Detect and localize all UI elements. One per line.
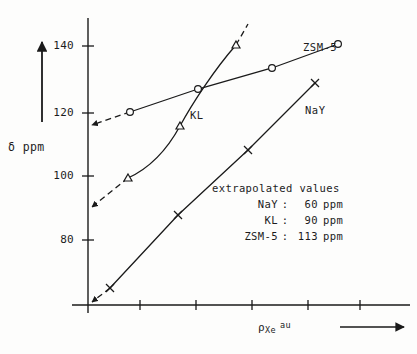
series-label-zsm5: ZSM-5 — [303, 41, 337, 53]
x-axis-superscript: au — [276, 320, 291, 330]
extrapolated-row-sep: : — [278, 196, 292, 212]
extrapolated-values-title: extrapolated values — [212, 180, 392, 196]
extrapolated-row-value: 90 — [292, 212, 318, 228]
y-tick-label-100: 100 — [44, 169, 74, 182]
x-axis-title: ρXeau — [258, 320, 291, 335]
extrapolated-values-box: extrapolated values NaY:60ppm KL:90ppm Z… — [212, 180, 392, 244]
extrapolated-row-name: NaY — [226, 196, 278, 212]
series-kl-extrapolation — [92, 178, 128, 207]
y-tick-label-80: 80 — [44, 233, 74, 246]
y-axis-unit: ppm — [23, 140, 45, 154]
extrapolated-row-sep: : — [278, 212, 292, 228]
series-kl-point — [232, 41, 240, 48]
extrapolated-row-name: ZSM-5 — [226, 228, 278, 244]
extrapolated-row-name: KL — [226, 212, 278, 228]
extrapolated-row-unit: ppm — [318, 212, 343, 228]
series-label-nay: NaY — [305, 104, 325, 116]
series-kl-line — [128, 45, 236, 178]
extrapolated-row-sep: : — [278, 228, 292, 244]
series-kl-point — [124, 174, 132, 181]
y-tick-label-140: 140 — [44, 39, 74, 52]
y-tick-label-120: 120 — [44, 106, 74, 119]
series-nay-point — [311, 79, 319, 87]
series-zsm5-line — [130, 44, 338, 112]
series-zsm5-extrapolation — [92, 112, 130, 125]
series-zsm5-point — [127, 109, 134, 116]
extrapolated-value-row: ZSM-5:113ppm — [212, 228, 392, 244]
series-nay-point — [106, 284, 114, 292]
series-kl-line-dashed-top — [236, 24, 248, 45]
series-kl-point — [176, 122, 184, 129]
x-axis-subscript: Xe — [265, 325, 276, 335]
extrapolated-row-unit: ppm — [318, 228, 343, 244]
series-nay-point — [174, 211, 182, 219]
extrapolated-row-unit: ppm — [318, 196, 343, 212]
series-zsm5-point — [269, 65, 276, 72]
series-zsm5 — [92, 41, 341, 125]
extrapolated-row-value: 113 — [292, 228, 318, 244]
series-label-kl: KL — [190, 109, 204, 121]
extrapolated-value-row: NaY:60ppm — [212, 196, 392, 212]
extrapolated-row-value: 60 — [292, 196, 318, 212]
y-axis-title: δ ppm — [8, 140, 45, 154]
series-nay-point — [244, 146, 252, 154]
extrapolated-value-row: KL:90ppm — [212, 212, 392, 228]
x-axis-symbol: ρ — [258, 321, 265, 334]
chart-figure: 140 120 100 80 δ ppm ρXeau ZSM-5 KL NaY … — [0, 0, 417, 354]
